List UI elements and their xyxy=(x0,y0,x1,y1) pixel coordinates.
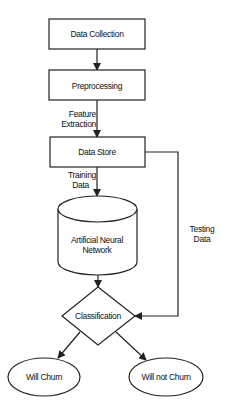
node-will-not-churn-label: Will not Churn xyxy=(141,372,191,382)
node-will-churn-label: Will Churn xyxy=(26,372,63,382)
node-classification: Classification xyxy=(62,287,135,345)
node-classification-label: Classification xyxy=(75,311,121,321)
edge-classification-to-will-not-churn xyxy=(116,332,146,360)
edge-label-feature-line1: Feature xyxy=(69,109,97,119)
edge-label-testing-line1: Testing xyxy=(190,224,215,234)
node-preprocessing-label: Preprocessing xyxy=(72,81,123,91)
node-data-store: Data Store xyxy=(50,137,145,167)
edge-datastore-to-classification xyxy=(135,152,178,316)
node-data-store-label: Data Store xyxy=(78,147,116,157)
edge-classification-to-will-churn xyxy=(58,332,80,358)
node-preprocessing: Preprocessing xyxy=(49,70,145,100)
node-data-collection: Data Collection xyxy=(49,19,145,49)
node-ann-label-line2: Network xyxy=(82,245,112,255)
edge-label-training-line2: Data xyxy=(72,180,89,190)
node-will-not-churn: Will not Churn xyxy=(129,358,203,396)
edge-label-testing-line2: Data xyxy=(194,234,211,244)
edge-label-training-line1: Training xyxy=(68,170,97,180)
flowchart-canvas: Data Collection Preprocessing Feature Ex… xyxy=(0,0,232,413)
edge-label-feature-line2: Extraction xyxy=(61,119,96,129)
node-artificial-neural-network: Artificial Neural Network xyxy=(58,196,137,275)
node-data-collection-label: Data Collection xyxy=(70,29,124,39)
node-ann-label-line1: Artificial Neural xyxy=(71,235,123,245)
node-will-churn: Will Churn xyxy=(8,358,80,396)
